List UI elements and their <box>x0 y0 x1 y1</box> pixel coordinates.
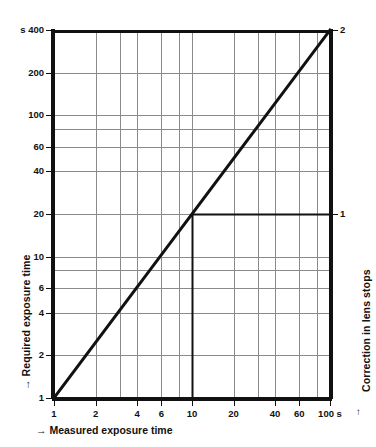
y-tick-label: s 400 <box>20 24 44 35</box>
x-tick-label: 4 <box>134 408 139 419</box>
x-tick-label: 40 <box>270 408 281 419</box>
y-tick-label: 6 <box>39 282 44 293</box>
y-tick-label: 1 <box>39 392 44 403</box>
chart-background <box>0 0 376 447</box>
x-tick-label: 6 <box>159 408 164 419</box>
y-tick-label: 200 <box>28 67 44 78</box>
y-tick-label: 10 <box>33 251 44 262</box>
x-tick-label: 20 <box>228 408 239 419</box>
y-tick-label: 60 <box>33 141 44 152</box>
y-tick-label: 20 <box>33 208 44 219</box>
y-tick-label: 4 <box>39 307 44 318</box>
chart-canvas <box>0 0 376 447</box>
x-tick-label: 10 <box>187 408 198 419</box>
y2-tick-label: 1 <box>340 208 345 219</box>
x-tick-label: 1 <box>51 408 56 419</box>
x-tick-label: 100 s <box>318 408 342 419</box>
exposure-correction-nomogram: s 400200100604020106421124610204060100 s… <box>0 0 376 447</box>
y2-axis-title: Correction in lens stops <box>360 269 372 392</box>
y2-axis-arrow-icon: ↑ <box>356 406 361 417</box>
y-tick-label: 40 <box>33 165 44 176</box>
y-tick-label: 100 <box>28 109 44 120</box>
y-axis-title: → Required exposure time <box>20 255 32 390</box>
y-tick-label: 2 <box>39 349 44 360</box>
x-tick-label: 2 <box>93 408 98 419</box>
y2-tick-label: 2 <box>340 24 345 35</box>
x-tick-label: 60 <box>294 408 305 419</box>
x-axis-title: → Measured exposure time <box>36 424 173 436</box>
